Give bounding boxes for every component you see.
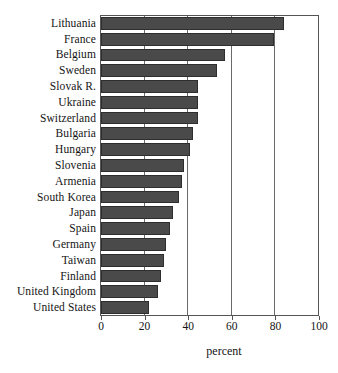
category-label: Germany bbox=[0, 239, 96, 251]
bar-germany bbox=[101, 238, 166, 251]
category-label: Belgium bbox=[0, 49, 96, 61]
bar-armenia bbox=[101, 175, 182, 188]
bar-bulgaria bbox=[101, 127, 193, 140]
bar-row bbox=[101, 174, 319, 190]
category-label: United States bbox=[0, 302, 96, 314]
bar-lithuania bbox=[101, 17, 284, 30]
bar-france bbox=[101, 33, 274, 46]
bar-switzerland bbox=[101, 112, 198, 125]
bar-row bbox=[101, 269, 319, 285]
bar-slovenia bbox=[101, 159, 184, 172]
category-label: Slovak R. bbox=[0, 81, 96, 93]
bar-row bbox=[101, 142, 319, 158]
bar-chart: LithuaniaFranceBelgiumSwedenSlovak R.Ukr… bbox=[0, 0, 338, 373]
x-axis-title-label: percent bbox=[206, 344, 241, 359]
category-label: Finland bbox=[0, 271, 96, 283]
category-label: Japan bbox=[0, 207, 96, 219]
bar-row bbox=[101, 253, 319, 269]
bar-japan bbox=[101, 206, 173, 219]
category-label: Slovenia bbox=[0, 160, 96, 172]
bar-row bbox=[101, 32, 319, 48]
tick-label-0: 0 bbox=[98, 320, 104, 332]
tick-label-100: 100 bbox=[310, 320, 327, 332]
category-label: Hungary bbox=[0, 144, 96, 156]
bar-belgium bbox=[101, 49, 225, 62]
bar-finland bbox=[101, 270, 161, 283]
bar-row bbox=[101, 63, 319, 79]
bar-row bbox=[101, 205, 319, 221]
bar-row bbox=[101, 111, 319, 127]
tick-label-40: 40 bbox=[182, 320, 194, 332]
category-label: France bbox=[0, 34, 96, 46]
bar-row bbox=[101, 158, 319, 174]
bar-row bbox=[101, 190, 319, 206]
value-axis-ticks: 020406080100 bbox=[0, 316, 338, 332]
bar-row bbox=[101, 16, 319, 32]
bar-sweden bbox=[101, 64, 217, 77]
bar-row bbox=[101, 79, 319, 95]
category-label: Sweden bbox=[0, 65, 96, 77]
bar-row bbox=[101, 95, 319, 111]
bar-row bbox=[101, 237, 319, 253]
x-axis-title: percent bbox=[0, 344, 338, 359]
tick-label-60: 60 bbox=[226, 320, 238, 332]
category-label: Armenia bbox=[0, 176, 96, 188]
category-label: South Korea bbox=[0, 192, 96, 204]
category-label: Spain bbox=[0, 223, 96, 235]
category-label: Bulgaria bbox=[0, 128, 96, 140]
bar-ukraine bbox=[101, 96, 198, 109]
bar-united-states bbox=[101, 301, 149, 314]
bar-row bbox=[101, 48, 319, 64]
category-label: Ukraine bbox=[0, 97, 96, 109]
bar-south-korea bbox=[101, 191, 179, 204]
bar-hungary bbox=[101, 143, 190, 156]
tick-label-20: 20 bbox=[139, 320, 151, 332]
bar-united-kingdom bbox=[101, 285, 158, 298]
bar-taiwan bbox=[101, 254, 164, 267]
bar-row bbox=[101, 126, 319, 142]
category-axis-labels: LithuaniaFranceBelgiumSwedenSlovak R.Ukr… bbox=[0, 16, 96, 316]
bar-row bbox=[101, 221, 319, 237]
category-label: Switzerland bbox=[0, 113, 96, 125]
bar-spain bbox=[101, 222, 170, 235]
tick-label-80: 80 bbox=[270, 320, 282, 332]
bar-row bbox=[101, 284, 319, 300]
bar-slovak-r bbox=[101, 80, 198, 93]
bars-container bbox=[101, 16, 319, 316]
category-label: United Kingdom bbox=[0, 286, 96, 298]
bar-row bbox=[101, 300, 319, 316]
category-label: Lithuania bbox=[0, 18, 96, 30]
category-label: Taiwan bbox=[0, 255, 96, 267]
